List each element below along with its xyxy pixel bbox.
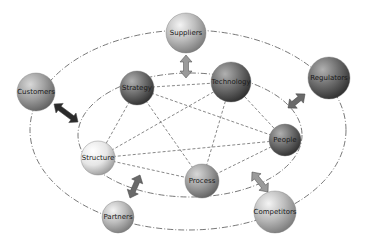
double-arrow-icon — [50, 99, 81, 127]
node-label: Structure — [82, 154, 115, 162]
node-partners: Partners — [102, 201, 134, 233]
link-technology-structure — [98, 82, 231, 158]
network-diagram: SuppliersStrategyTechnologyRegulatorsCus… — [0, 0, 377, 248]
node-customers: Customers — [17, 73, 55, 111]
double-arrow-icon — [180, 55, 192, 78]
node-label: Partners — [103, 213, 132, 221]
node-competitors: Competitors — [254, 191, 297, 233]
node-suppliers: Suppliers — [166, 13, 206, 53]
node-label: Regulators — [310, 74, 348, 82]
node-label: Process — [189, 177, 216, 185]
node-regulators: Regulators — [308, 57, 350, 99]
node-label: Customers — [17, 88, 55, 96]
node-process: Process — [185, 164, 219, 198]
link-people-structure — [98, 140, 285, 158]
node-label: Technology — [210, 78, 250, 86]
node-technology: Technology — [210, 62, 251, 102]
node-label: Suppliers — [170, 29, 203, 37]
node-label: Strategy — [122, 84, 152, 92]
node-structure: Structure — [81, 141, 115, 175]
node-label: Competitors — [254, 208, 297, 216]
node-strategy: Strategy — [120, 71, 154, 105]
link-strategy-people — [137, 88, 285, 140]
double-arrow-icon — [284, 89, 309, 112]
double-arrow-icon — [247, 168, 272, 195]
nodes: SuppliersStrategyTechnologyRegulatorsCus… — [17, 13, 350, 233]
node-people: People — [269, 124, 301, 156]
node-label: People — [273, 136, 296, 144]
